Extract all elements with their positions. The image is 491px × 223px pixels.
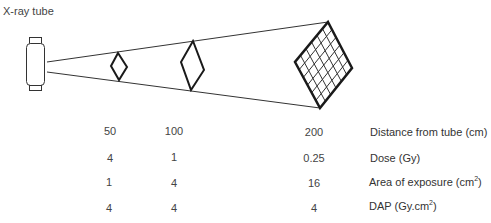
value-dose-200: 0.25 — [294, 152, 334, 164]
value-area-50: 1 — [89, 176, 129, 188]
value-dap-100: 4 — [154, 202, 194, 214]
exposure-area-50cm — [111, 53, 127, 80]
row-label-distance: Distance from tube (cm) — [370, 126, 487, 138]
value-distance-100: 100 — [154, 125, 194, 137]
value-dap-50: 4 — [89, 202, 129, 214]
xray-tube-icon — [27, 38, 45, 91]
row-label-dap: DAP (Gy.cm2) — [369, 200, 437, 212]
exposure-area-200cm-grid — [295, 22, 352, 108]
value-dap-200: 4 — [294, 202, 334, 214]
exposure-area-100cm — [181, 41, 204, 90]
value-area-100: 4 — [154, 177, 194, 189]
value-area-200: 16 — [294, 177, 334, 189]
value-dose-100: 1 — [154, 151, 194, 163]
row-label-dose: Dose (Gy) — [370, 152, 420, 164]
value-distance-50: 50 — [90, 125, 130, 137]
row-label-area: Area of exposure (cm2) — [369, 176, 482, 188]
xray-tube-label: X-ray tube — [3, 5, 54, 17]
xray-beam-diagram — [0, 0, 491, 223]
value-dose-50: 4 — [90, 152, 130, 164]
beam-lines — [47, 22, 328, 108]
value-distance-200: 200 — [294, 126, 334, 138]
